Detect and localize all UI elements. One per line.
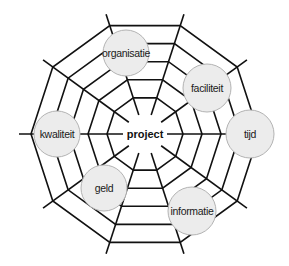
node-geld: geld	[81, 165, 127, 211]
node-label: organisatie	[102, 47, 151, 59]
node-kwaliteit: kwaliteit	[34, 111, 80, 157]
node-tijd: tijd	[226, 110, 274, 158]
spoke-line	[151, 14, 184, 115]
spider-web-diagram: organisatie faciliteit tijd informatie g…	[0, 0, 289, 266]
node-label: kwaliteit	[40, 128, 75, 140]
node-label: informatie	[170, 205, 214, 217]
node-label: tijd	[244, 128, 257, 140]
node-organisatie: organisatie	[102, 30, 151, 76]
node-label: faciliteit	[191, 82, 223, 94]
center-label-project: project	[127, 128, 164, 140]
node-informatie: informatie	[168, 187, 216, 235]
node-label: geld	[95, 182, 114, 194]
node-faciliteit: faciliteit	[183, 64, 231, 112]
